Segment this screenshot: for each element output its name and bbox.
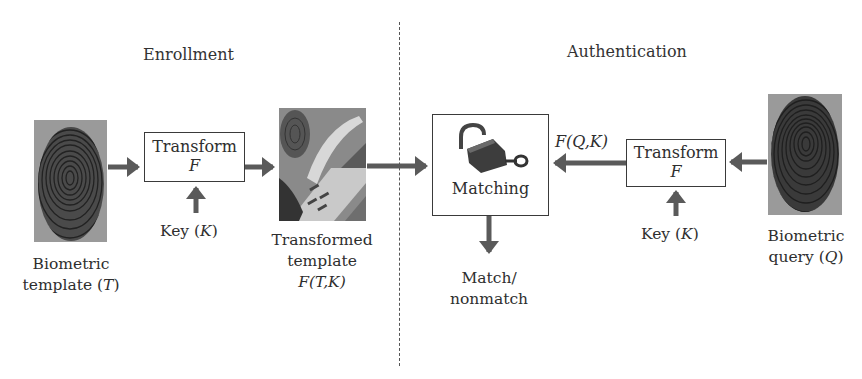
matching-box: Matching bbox=[432, 114, 549, 216]
matching-title: Matching bbox=[433, 179, 548, 198]
key-label-authentication: Key (K) bbox=[641, 224, 699, 245]
transformed-template-image bbox=[279, 108, 366, 221]
transform-symbol: F bbox=[145, 156, 244, 175]
padlock-key-icon bbox=[451, 121, 531, 173]
transformed-template-label: Transformed template F(T,K) bbox=[262, 230, 382, 293]
biometric-query-image bbox=[768, 94, 842, 215]
transform-title: Transform bbox=[145, 137, 244, 156]
lock-fingerprint-icon bbox=[279, 108, 366, 221]
flow-arrows bbox=[0, 0, 862, 379]
formula-f-q-k: F(Q,K) bbox=[555, 131, 608, 152]
key-label-enrollment: Key (K) bbox=[160, 221, 218, 242]
transform-symbol: F bbox=[627, 162, 725, 181]
biometric-template-label: Biometric template (T) bbox=[15, 254, 127, 296]
match-result-label: Match/ nonmatch bbox=[439, 268, 539, 310]
biometric-query-label: Biometric query (Q) bbox=[750, 226, 862, 268]
fingerprint-icon bbox=[768, 94, 842, 215]
fingerprint-icon bbox=[34, 120, 107, 242]
formula-f-t-k: F(T,K) bbox=[262, 272, 382, 293]
biometric-template-image bbox=[34, 120, 107, 242]
transform-box-authentication: Transform F bbox=[626, 139, 726, 187]
transform-title: Transform bbox=[627, 143, 725, 162]
transform-box-enrollment: Transform F bbox=[144, 132, 245, 182]
